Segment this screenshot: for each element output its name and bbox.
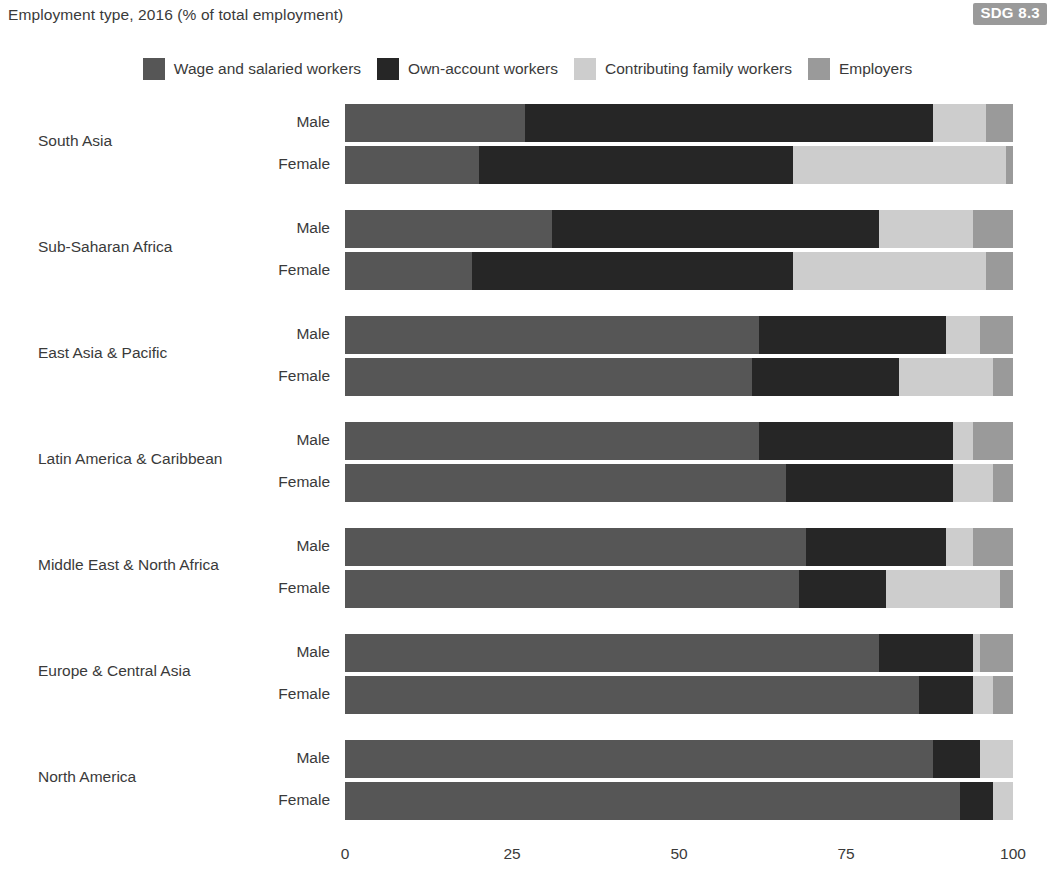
stacked-bar[interactable]	[345, 740, 1013, 778]
stacked-bar[interactable]	[345, 782, 1013, 820]
bar-segment-employers[interactable]	[986, 252, 1013, 290]
bar-segment-family[interactable]	[879, 210, 973, 248]
bar-segment-family[interactable]	[980, 740, 1013, 778]
region-group: North AmericaMaleFemale	[0, 736, 1055, 820]
bar-segment-family[interactable]	[946, 528, 973, 566]
bar-row: Male	[0, 104, 1055, 142]
bar-segment-family[interactable]	[793, 252, 987, 290]
legend-swatch-own-icon	[377, 58, 399, 80]
bar-row: Male	[0, 422, 1055, 460]
stacked-bar[interactable]	[345, 464, 1013, 502]
sex-label: Female	[200, 155, 330, 173]
stacked-bar[interactable]	[345, 528, 1013, 566]
bar-segment-wage[interactable]	[345, 316, 759, 354]
legend-swatch-wage-icon	[143, 58, 165, 80]
region-group: Europe & Central AsiaMaleFemale	[0, 630, 1055, 714]
bar-segment-own[interactable]	[786, 464, 953, 502]
bar-segment-wage[interactable]	[345, 358, 752, 396]
bar-segment-own[interactable]	[933, 740, 980, 778]
bar-segment-own[interactable]	[799, 570, 886, 608]
bar-segment-wage[interactable]	[345, 146, 479, 184]
chart-plot-area: South AsiaMaleFemaleSub-Saharan AfricaMa…	[0, 100, 1055, 840]
sex-label: Female	[200, 473, 330, 491]
stacked-bar[interactable]	[345, 634, 1013, 672]
bar-segment-family[interactable]	[886, 570, 1000, 608]
bar-segment-wage[interactable]	[345, 782, 960, 820]
bar-segment-family[interactable]	[973, 634, 980, 672]
bar-segment-own[interactable]	[879, 634, 973, 672]
sex-label: Male	[200, 325, 330, 343]
bar-row: Female	[0, 676, 1055, 714]
bar-row: Male	[0, 316, 1055, 354]
bar-segment-employers[interactable]	[986, 104, 1013, 142]
stacked-bar[interactable]	[345, 676, 1013, 714]
region-group: Latin America & CaribbeanMaleFemale	[0, 418, 1055, 502]
bar-segment-employers[interactable]	[993, 464, 1013, 502]
bar-segment-own[interactable]	[752, 358, 899, 396]
bar-row: Female	[0, 570, 1055, 608]
bar-segment-wage[interactable]	[345, 676, 919, 714]
bar-segment-own[interactable]	[806, 528, 946, 566]
bar-segment-wage[interactable]	[345, 422, 759, 460]
bar-segment-family[interactable]	[793, 146, 1007, 184]
bar-segment-wage[interactable]	[345, 464, 786, 502]
sdg-badge: SDG 8.3	[973, 3, 1047, 25]
legend-swatch-employers-icon	[808, 58, 830, 80]
sex-label: Male	[200, 749, 330, 767]
bar-segment-employers[interactable]	[980, 634, 1013, 672]
bar-segment-family[interactable]	[973, 676, 993, 714]
bar-segment-family[interactable]	[933, 104, 986, 142]
legend-label: Own-account workers	[408, 60, 558, 78]
stacked-bar[interactable]	[345, 422, 1013, 460]
legend-label: Wage and salaried workers	[174, 60, 361, 78]
stacked-bar[interactable]	[345, 210, 1013, 248]
bar-segment-wage[interactable]	[345, 104, 525, 142]
bar-segment-employers[interactable]	[980, 316, 1013, 354]
bar-segment-family[interactable]	[993, 782, 1013, 820]
legend-item-family[interactable]: Contributing family workers	[574, 58, 792, 80]
bar-segment-wage[interactable]	[345, 634, 879, 672]
bar-segment-own[interactable]	[759, 422, 953, 460]
page-title: Employment type, 2016 (% of total employ…	[8, 6, 343, 24]
stacked-bar[interactable]	[345, 316, 1013, 354]
sex-label: Male	[200, 219, 330, 237]
stacked-bar[interactable]	[345, 146, 1013, 184]
x-axis-tick-label: 25	[503, 845, 520, 863]
bar-segment-own[interactable]	[525, 104, 932, 142]
legend-item-own[interactable]: Own-account workers	[377, 58, 558, 80]
bar-row: Female	[0, 252, 1055, 290]
bar-segment-own[interactable]	[552, 210, 879, 248]
bar-segment-employers[interactable]	[1006, 146, 1013, 184]
bar-segment-employers[interactable]	[973, 528, 1013, 566]
bar-segment-wage[interactable]	[345, 210, 552, 248]
bar-segment-employers[interactable]	[973, 210, 1013, 248]
stacked-bar[interactable]	[345, 252, 1013, 290]
legend-item-wage[interactable]: Wage and salaried workers	[143, 58, 361, 80]
bar-segment-own[interactable]	[960, 782, 993, 820]
bar-row: Female	[0, 146, 1055, 184]
bar-segment-family[interactable]	[953, 464, 993, 502]
legend-item-employers[interactable]: Employers	[808, 58, 912, 80]
chart-legend: Wage and salaried workersOwn-account wor…	[0, 58, 1055, 80]
bar-segment-family[interactable]	[946, 316, 979, 354]
stacked-bar[interactable]	[345, 104, 1013, 142]
bar-segment-employers[interactable]	[993, 358, 1013, 396]
stacked-bar[interactable]	[345, 570, 1013, 608]
x-axis-tick-label: 100	[1000, 845, 1026, 863]
x-axis-tick-label: 0	[341, 845, 350, 863]
bar-segment-family[interactable]	[899, 358, 993, 396]
bar-segment-family[interactable]	[953, 422, 973, 460]
bar-segment-wage[interactable]	[345, 528, 806, 566]
stacked-bar[interactable]	[345, 358, 1013, 396]
bar-segment-employers[interactable]	[993, 676, 1013, 714]
bar-segment-own[interactable]	[472, 252, 793, 290]
bar-segment-wage[interactable]	[345, 252, 472, 290]
bar-segment-own[interactable]	[919, 676, 972, 714]
bar-segment-employers[interactable]	[973, 422, 1013, 460]
bar-segment-own[interactable]	[759, 316, 946, 354]
bar-segment-wage[interactable]	[345, 570, 799, 608]
x-axis: 0255075100	[345, 845, 1013, 875]
bar-segment-employers[interactable]	[1000, 570, 1013, 608]
bar-segment-wage[interactable]	[345, 740, 933, 778]
bar-segment-own[interactable]	[479, 146, 793, 184]
